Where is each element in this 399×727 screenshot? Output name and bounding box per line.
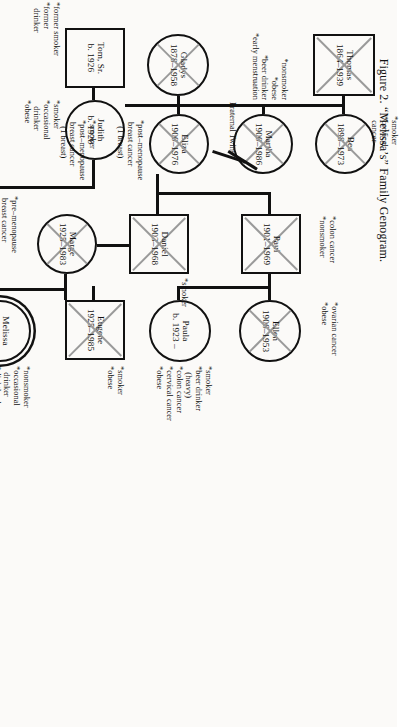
person-label-paul: Paul1901–1969 [261,216,280,272]
annotation-ellen: *ovarian cancer *obese [319,302,339,412]
person-node-tomsr[interactable]: Tom, Sr.b. 1926 [65,28,125,88]
person-label-eliza: Eliza1900–1976 [169,116,188,172]
connector-daniel-marge-v [97,244,129,247]
person-label-martha: Martha1900–1986 [253,116,272,172]
person-label-gladys: Gladys1878–1958 [168,36,187,94]
figure-caption: Figure 2. “Melissa’s” Family Genogram. [376,58,391,262]
person-label-thomas: Thomas1864–1939 [334,36,353,94]
person-node-bea[interactable]: Bea1898–1973 [315,114,375,174]
person-label-ellen: Ellen1906–1953 [260,302,279,360]
annotation-daniel: *smoker [179,278,189,348]
person-node-thomas[interactable]: Thomas1864–1939 [313,34,375,96]
person-node-gladys[interactable]: Gladys1878–1958 [147,34,209,96]
person-node-eliza[interactable]: Eliza1900–1976 [149,114,209,174]
person-node-ellen[interactable]: Ellen1906–1953 [239,300,301,362]
person-node-eugene[interactable]: Eugene1925–1985 [65,300,125,360]
annotation-paula: *smoker *beer drinker (heavy) *colon can… [154,366,213,476]
connector-paul-ellen-drop [179,286,271,289]
annotation-eliza: *smoker *post–menopause breast cancer (1… [58,120,97,230]
connector-tomsr-judith [93,88,96,100]
connector-eugene-marge [65,274,68,300]
annotation-judith: *smoker *occasional drinker *obese [22,100,61,196]
connector-gladys-paul-v [159,192,271,195]
annotation-thomas-martha-group: *nonsmoker *obese *beer drinker *early m… [250,2,289,100]
connector-thomas-vertical [263,104,345,107]
annotation-marge: *pre–menopause breast cancer (both sides… [0,196,19,316]
annotation-tomsr: *former smoker *former drinker [32,2,61,98]
twins-note: Fraternal Twins [227,100,237,156]
person-label-tomsr: Tom, Sr.b. 1926 [85,30,104,86]
person-node-martha[interactable]: Martha1900–1986 [233,114,293,174]
annotation-eugene: *smoker *obese [105,366,125,446]
connector-eugene-sib [93,286,96,300]
person-label-eugene: Eugene1925–1985 [85,302,104,358]
annotation-gladys: *post–menopause breast cancer (1 breast) [116,120,145,230]
person-label-daniel: Daniel1903–1968 [149,216,168,272]
annotation-melissa: *nonsmoker *occasional drinker *slightly… [0,366,31,476]
connector-gladys-paul-h [269,192,272,214]
person-node-paul[interactable]: Paul1901–1969 [241,214,301,274]
connector-martha-children-v [125,104,265,107]
person-label-bea: Bea1898–1973 [335,116,354,172]
